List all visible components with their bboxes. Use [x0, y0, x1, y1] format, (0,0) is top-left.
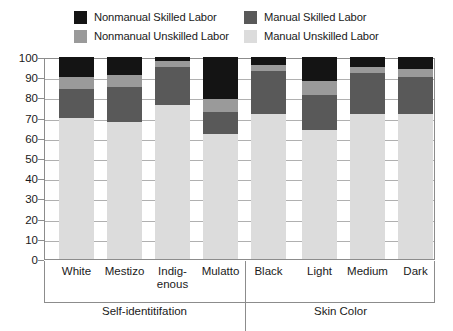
bar-segment — [350, 73, 385, 113]
bar-segment — [203, 134, 238, 259]
legend-item-nonmanual-skilled: Nonmanual Skilled Labor — [74, 11, 244, 24]
y-axis-tick-label: 20 — [4, 214, 38, 225]
bar-segment — [302, 81, 337, 95]
legend-item-manual-unskilled: Manual Unskilled Labor — [244, 30, 404, 43]
group-label-1: Self-identitifation — [44, 305, 245, 317]
bar-segment — [107, 87, 142, 121]
bar-segment — [398, 114, 433, 259]
category-label-line2: enous — [141, 278, 204, 291]
y-axis-tick-label: 30 — [4, 194, 38, 205]
bar-segment — [398, 69, 433, 77]
bar-segment — [398, 57, 433, 69]
bar-segment — [203, 57, 238, 99]
bar-1[interactable] — [59, 57, 94, 259]
plot-area — [44, 58, 435, 260]
y-axis-tick-label: 60 — [4, 133, 38, 144]
legend-swatch-manual-unskilled-icon — [244, 30, 257, 43]
bar-segment — [59, 57, 94, 77]
legend-swatch-nonmanual-unskilled-icon — [74, 30, 87, 43]
bar-segment — [302, 95, 337, 129]
y-axis-tick-label: 80 — [4, 93, 38, 104]
bar-segment — [302, 57, 337, 81]
chart-legend: Nonmanual Skilled Labor Manual Skilled L… — [74, 8, 404, 46]
y-axis-tick-label: 90 — [4, 73, 38, 84]
bar-segment — [251, 71, 286, 113]
bar-segment — [155, 105, 190, 259]
bar-segment — [107, 122, 142, 259]
y-axis-tick-label: 100 — [4, 53, 38, 64]
bar-segment — [350, 57, 385, 67]
bar-7[interactable] — [350, 57, 385, 259]
legend-label-manual-unskilled: Manual Unskilled Labor — [264, 30, 379, 43]
bar-8[interactable] — [398, 57, 433, 259]
legend-label-nonmanual-unskilled: Nonmanual Unskilled Labor — [94, 30, 229, 43]
y-axis-tick-label: 0 — [4, 255, 38, 266]
category-label-box: WhiteMestizoIndig-enousMulattoBlackLight… — [44, 261, 435, 303]
legend-swatch-nonmanual-skilled-icon — [74, 11, 87, 24]
bar-segment — [203, 99, 238, 111]
bar-segment — [59, 77, 94, 89]
bar-2[interactable] — [107, 57, 142, 259]
group-divider — [245, 261, 246, 331]
bar-4[interactable] — [203, 57, 238, 259]
category-label-8: Dark — [384, 265, 447, 278]
legend-label-manual-skilled: Manual Skilled Labor — [264, 11, 366, 24]
y-axis: 1009080706050403020100 — [0, 58, 38, 260]
bar-segment — [251, 57, 286, 65]
y-axis-tick-label: 10 — [4, 234, 38, 245]
bar-6[interactable] — [302, 57, 337, 259]
bar-segment — [59, 89, 94, 117]
group-label-2: Skin Color — [246, 305, 435, 317]
bar-segment — [398, 77, 433, 113]
bar-segment — [302, 130, 337, 259]
category-label-line1: Dark — [384, 265, 447, 278]
bar-segment — [107, 57, 142, 75]
legend-label-nonmanual-skilled: Nonmanual Skilled Labor — [94, 11, 217, 24]
bar-segment — [155, 67, 190, 105]
bar-5[interactable] — [251, 57, 286, 259]
bar-segment — [251, 114, 286, 259]
bar-segment — [107, 75, 142, 87]
bar-segment — [350, 114, 385, 259]
bar-segment — [203, 112, 238, 134]
bar-segment — [59, 118, 94, 259]
legend-item-nonmanual-unskilled: Nonmanual Unskilled Labor — [74, 30, 244, 43]
bar-3[interactable] — [155, 57, 190, 259]
y-axis-tick-label: 50 — [4, 154, 38, 165]
y-axis-tick-label: 70 — [4, 113, 38, 124]
legend-item-manual-skilled: Manual Skilled Labor — [244, 11, 404, 24]
y-axis-tick-label: 40 — [4, 174, 38, 185]
legend-swatch-manual-skilled-icon — [244, 11, 257, 24]
bar-series-container — [45, 59, 434, 259]
